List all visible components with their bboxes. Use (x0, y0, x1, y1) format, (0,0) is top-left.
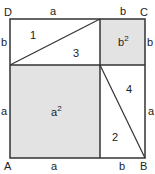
top-label-a: a (50, 5, 57, 17)
region-3-label: 3 (73, 47, 79, 59)
pythagorean-square-diagram: D C A B a b a b b a b a 1 3 4 2 a2 b2 (0, 0, 155, 174)
right-label-a: a (148, 105, 155, 117)
vertex-d: D (4, 6, 12, 18)
diagonal-right (100, 65, 145, 158)
region-1-label: 1 (30, 29, 36, 41)
right-label-b: b (147, 36, 153, 48)
left-label-b: b (1, 36, 7, 48)
bottom-label-a: a (51, 160, 58, 172)
diagonal-top (10, 19, 100, 65)
vertex-c: C (140, 6, 148, 18)
region-2-label: 2 (112, 131, 118, 143)
top-label-b: b (120, 5, 126, 17)
left-label-a: a (1, 105, 8, 117)
bottom-label-b: b (119, 160, 125, 172)
vertex-a: A (4, 160, 12, 172)
region-4-label: 4 (126, 83, 132, 95)
vertex-b: B (140, 160, 147, 172)
